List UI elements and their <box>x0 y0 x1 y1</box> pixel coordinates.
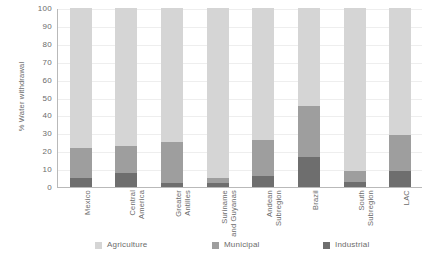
y-tick-label: 100 <box>0 5 52 13</box>
bar-segment-industrial[interactable] <box>298 157 320 187</box>
y-tick-label: 20 <box>0 148 52 156</box>
bar-group[interactable] <box>207 8 229 187</box>
plot-area <box>57 9 422 188</box>
legend-label: Industrial <box>335 241 369 249</box>
bar-segment-agriculture[interactable] <box>161 8 183 142</box>
y-tick-label: 50 <box>0 95 52 103</box>
chart-legend: AgricultureMunicipalIndustrial <box>0 241 430 255</box>
bar-segment-municipal[interactable] <box>115 146 137 173</box>
bar-segment-agriculture[interactable] <box>389 8 411 135</box>
legend-label: Agriculture <box>107 241 147 249</box>
bar-segment-agriculture[interactable] <box>70 8 92 148</box>
bar-group[interactable] <box>344 8 366 187</box>
bar-group[interactable] <box>115 8 137 187</box>
legend-label: Municipal <box>224 241 260 249</box>
x-axis-tick-labels: MexicoCentral AmericaGreater AntillesSur… <box>57 190 422 240</box>
y-tick-label: 40 <box>0 112 52 120</box>
bar-group[interactable] <box>161 8 183 187</box>
bar-segment-industrial[interactable] <box>115 173 137 187</box>
bar-segment-agriculture[interactable] <box>298 8 320 106</box>
legend-swatch-municipal <box>212 242 219 249</box>
bar-segment-industrial[interactable] <box>207 183 229 187</box>
bar-segment-agriculture[interactable] <box>252 8 274 140</box>
bar-segment-agriculture[interactable] <box>207 8 229 178</box>
bar-group[interactable] <box>389 8 411 187</box>
bar-segment-agriculture[interactable] <box>115 8 137 146</box>
y-tick-label: 80 <box>0 41 52 49</box>
bar-segment-municipal[interactable] <box>252 140 274 176</box>
bar-series-container <box>58 9 422 187</box>
bar-segment-industrial[interactable] <box>389 171 411 187</box>
bar-group[interactable] <box>252 8 274 187</box>
bar-segment-industrial[interactable] <box>161 183 183 187</box>
y-tick-label: 0 <box>0 184 52 192</box>
legend-item[interactable]: Industrial <box>323 241 369 249</box>
stacked-bar-chart: % Water withdrawal 010203040506070809010… <box>0 0 430 262</box>
y-tick-label: 10 <box>0 166 52 174</box>
y-tick-label: 90 <box>0 23 52 31</box>
y-tick-label: 30 <box>0 130 52 138</box>
legend-item[interactable]: Agriculture <box>95 241 147 249</box>
bar-segment-municipal[interactable] <box>70 148 92 178</box>
y-axis-tick-labels: 0102030405060708090100 <box>0 9 52 188</box>
bar-segment-municipal[interactable] <box>298 106 320 156</box>
bar-segment-agriculture[interactable] <box>344 8 366 171</box>
y-tick-label: 60 <box>0 77 52 85</box>
bar-segment-municipal[interactable] <box>389 135 411 171</box>
bar-segment-municipal[interactable] <box>344 171 366 182</box>
bar-group[interactable] <box>298 8 320 187</box>
y-tick-label: 70 <box>0 59 52 67</box>
legend-swatch-industrial <box>323 242 330 249</box>
bar-segment-industrial[interactable] <box>70 178 92 187</box>
legend-item[interactable]: Municipal <box>212 241 260 249</box>
bar-segment-municipal[interactable] <box>161 142 183 183</box>
bar-segment-industrial[interactable] <box>252 176 274 187</box>
legend-swatch-agriculture <box>95 242 102 249</box>
bar-segment-industrial[interactable] <box>344 182 366 187</box>
bar-group[interactable] <box>70 8 92 187</box>
